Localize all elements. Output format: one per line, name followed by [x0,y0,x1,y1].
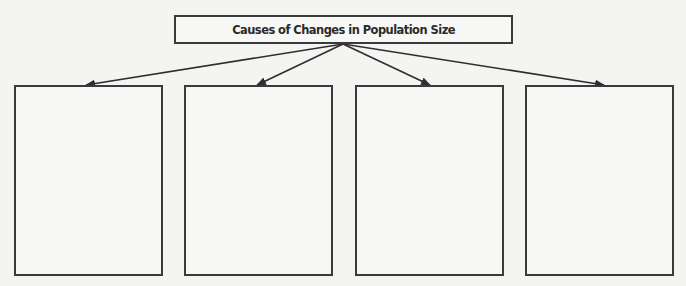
title-box: Causes of Changes in Population Size [174,15,513,44]
arrow-to-box-2 [257,44,343,85]
answer-box-1[interactable] [14,85,163,276]
arrow-to-box-4 [343,44,604,85]
arrow-to-box-1 [86,44,343,85]
answer-box-2[interactable] [184,85,333,276]
answer-box-3[interactable] [355,85,504,276]
answer-box-4[interactable] [525,85,674,276]
diagram-title: Causes of Changes in Population Size [232,22,455,37]
arrow-to-box-3 [343,44,430,85]
